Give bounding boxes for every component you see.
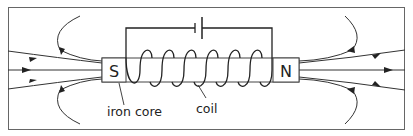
battery-circuit xyxy=(126,17,272,57)
south-pole-label: S xyxy=(109,62,119,81)
core-leader-line xyxy=(119,83,124,105)
iron-core xyxy=(102,58,299,82)
coil-label: coil xyxy=(196,101,217,116)
coil-leader-line xyxy=(198,85,206,98)
north-pole-label: N xyxy=(280,62,292,81)
iron-core-label: iron core xyxy=(107,104,162,119)
electromagnet-diagram: S N iron core coil xyxy=(0,0,413,136)
